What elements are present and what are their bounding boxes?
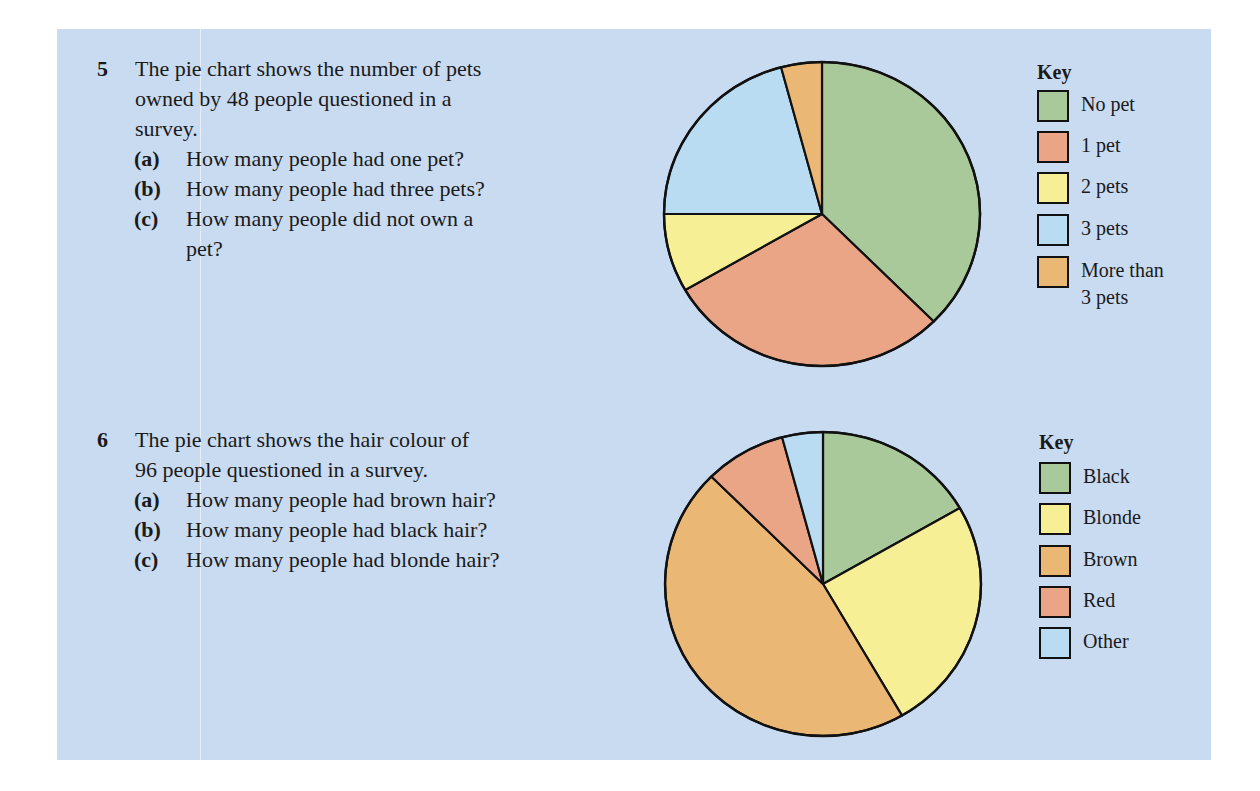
pie-chart-hair-colour (665, 432, 981, 736)
legend-swatch (1039, 586, 1071, 618)
legend-label: Red (1083, 588, 1115, 612)
legend-label: 1 pet (1081, 133, 1120, 157)
legend-swatch (1037, 214, 1069, 246)
legend-swatch (1037, 172, 1069, 204)
legend-label: More than (1081, 258, 1164, 282)
legend-label: No pet (1081, 92, 1135, 116)
legend-swatch (1037, 131, 1069, 163)
legend-swatch (1039, 503, 1071, 535)
legend-label-cont: 3 pets (1081, 285, 1128, 309)
legend-label: 3 pets (1081, 216, 1128, 240)
legend-swatch (1039, 627, 1071, 659)
pie-chart-pets (664, 62, 980, 366)
legend-label: Black (1083, 464, 1130, 488)
pie-charts (0, 0, 1260, 791)
legend-label: Blonde (1083, 505, 1141, 529)
legend-label: Other (1083, 629, 1129, 653)
legend-title: Key (1039, 430, 1073, 454)
legend-swatch (1039, 545, 1071, 577)
legend-swatch (1037, 256, 1069, 288)
legend-swatch (1039, 462, 1071, 494)
legend-label: 2 pets (1081, 174, 1128, 198)
legend-title: Key (1037, 60, 1071, 84)
legend-label: Brown (1083, 547, 1137, 571)
legend-swatch (1037, 90, 1069, 122)
